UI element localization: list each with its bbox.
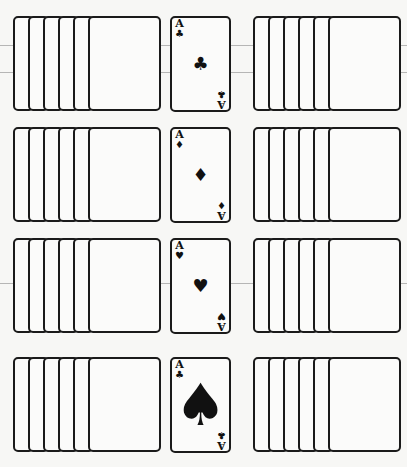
ace-card-hearts[interactable]: A♥♥A♥	[170, 238, 231, 334]
card-index-bottom: A♥	[217, 311, 226, 331]
right-pile-row-1[interactable]	[253, 16, 389, 111]
suit-icon: ♣	[217, 89, 226, 99]
card-rank: A	[217, 99, 226, 109]
card-index-top: A♥	[175, 241, 184, 261]
suit-icon: ♦	[217, 200, 226, 210]
card-index-top: A♦	[175, 130, 184, 150]
right-pile-row-3[interactable]	[253, 238, 389, 333]
ace-card-diamonds[interactable]: A♦♦A♦	[170, 127, 231, 223]
face-down-card[interactable]	[328, 238, 401, 333]
ace-card-clubs[interactable]: A♣♣A♣	[170, 16, 231, 112]
card-rank: A	[217, 210, 226, 220]
card-rank: A	[217, 440, 226, 450]
face-down-card[interactable]	[328, 357, 401, 452]
face-down-card[interactable]	[88, 16, 161, 111]
suit-icon: ♥	[175, 251, 184, 261]
face-down-card[interactable]	[328, 127, 401, 222]
right-pile-row-2[interactable]	[253, 127, 389, 222]
card-index-bottom: A♦	[217, 200, 226, 220]
face-down-card[interactable]	[88, 127, 161, 222]
suit-icon: ♦	[175, 140, 184, 150]
left-pile-row-4[interactable]	[13, 357, 149, 452]
left-pile-row-3[interactable]	[13, 238, 149, 333]
diamonds-suit-icon: ♦	[192, 166, 208, 184]
card-rank: A	[217, 321, 226, 331]
spades-suit-icon: ♠	[175, 376, 227, 434]
card-index-top: A♣	[175, 19, 184, 39]
suit-icon: ♣	[175, 29, 184, 39]
right-pile-row-4[interactable]	[253, 357, 389, 452]
left-pile-row-2[interactable]	[13, 127, 149, 222]
ace-card-spades[interactable]: A♣♠A♣	[170, 357, 231, 453]
face-down-card[interactable]	[88, 357, 161, 452]
suit-icon: ♣	[217, 430, 226, 440]
hearts-suit-icon: ♥	[192, 277, 208, 295]
clubs-suit-icon: ♣	[192, 55, 208, 73]
card-index-bottom: A♣	[217, 89, 226, 109]
suit-icon: ♥	[217, 311, 226, 321]
face-down-card[interactable]	[328, 16, 401, 111]
face-down-card[interactable]	[88, 238, 161, 333]
left-pile-row-1[interactable]	[13, 16, 149, 111]
card-index-bottom: A♣	[217, 430, 226, 450]
